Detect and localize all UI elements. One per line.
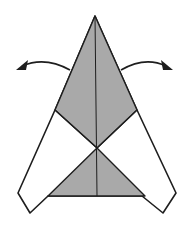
unfold-right-arrow-icon xyxy=(121,60,173,70)
origami-diagram xyxy=(0,0,185,231)
unfold-left-arrow-icon xyxy=(16,60,70,70)
diagram-canvas xyxy=(0,0,185,231)
